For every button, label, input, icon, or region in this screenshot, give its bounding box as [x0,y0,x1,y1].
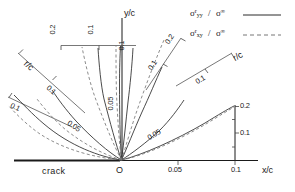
x-axis [14,161,258,166]
origin-label: O [116,166,123,175]
x-tick-0-1: 0.1 [231,166,241,174]
label-01-upperleft: 0.1 [87,25,95,35]
curves-sigma-xy [8,40,234,160]
legend-sigma-yy-denom-sup: ∞ [221,8,225,14]
legend-swatch-solid [243,12,283,18]
right-axis-tick-0-1: 0.1 [240,129,250,137]
x-tick-0-05: 0.05 [168,166,182,174]
legend-sigma-xy-sub: xy [197,32,203,38]
label-005-mid: 0.05 [107,97,115,111]
curves-sigma-yy [14,46,234,160]
crack-label: crack [42,167,66,176]
legend-entry-sigma-xy-label: σrxy / σ∞ [190,28,225,38]
legend-sigma-yy-divider: / [205,8,214,18]
legend-entry-sigma-yy-label: σryy / σ∞ [190,8,225,18]
label-02-upperleft: 0.2 [49,25,57,35]
x-axis-label: x/c [262,166,273,175]
legend-swatch-dashed [243,32,283,38]
right-value-axis [232,105,239,161]
y-axis-label: y/c [124,9,135,18]
stress-field-plot: .ax{stroke:#1a1a1a;stroke-width:1;fill:n… [0,0,295,192]
legend-sigma-xy-denom-sup: ∞ [221,28,225,34]
label-01-yaxis: 0.1 [118,41,126,51]
legend-sigma-xy-divider: / [205,28,214,38]
figure-root: .ax{stroke:#1a1a1a;stroke-width:1;fill:n… [0,0,295,192]
right-axis-tick-0-2: 0.2 [240,102,250,110]
legend-sigma-yy-sub: yy [197,12,203,18]
